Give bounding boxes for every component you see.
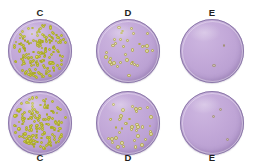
petri-dish-bottom-c (8, 91, 72, 155)
bacterial-colony (21, 30, 24, 33)
bacterial-colony (45, 123, 47, 125)
bacterial-colony (127, 74, 131, 78)
colony-layer-bottom-d (96, 91, 160, 155)
bacterial-colony (145, 49, 149, 53)
bacterial-colony (141, 125, 144, 128)
bacterial-colony (124, 122, 127, 125)
bacterial-colony (35, 110, 38, 113)
plate-label-top-d: D (88, 7, 168, 18)
bacterial-colony (60, 59, 63, 62)
bacterial-colony (122, 145, 125, 148)
colony-layer-top-e (180, 19, 244, 83)
bacterial-colony (116, 145, 120, 149)
bacterial-colony (37, 30, 40, 33)
bacterial-colony (52, 110, 55, 113)
bacterial-colony (23, 140, 26, 143)
bacterial-colony (35, 136, 38, 139)
bacterial-colony (117, 26, 121, 30)
bacterial-colony (54, 121, 57, 124)
bacterial-colony (61, 55, 64, 58)
bacterial-colony (144, 138, 147, 141)
bacterial-colony (55, 141, 58, 144)
bacterial-colony (128, 118, 131, 121)
bacterial-colony (121, 127, 124, 130)
plate-cell-top-d: D (88, 0, 168, 83)
bacterial-colony (119, 38, 122, 41)
bacterial-colony (140, 143, 144, 147)
bacterial-colony (130, 128, 133, 131)
petri-dish-figure-panel: C D E (0, 0, 256, 166)
bacterial-colony (136, 64, 139, 67)
plate-label-bottom-c: C (0, 152, 80, 163)
bacterial-colony (126, 39, 129, 42)
bacterial-colony (15, 41, 17, 43)
bacterial-colony (146, 106, 149, 109)
petri-dish-bottom-d (96, 91, 160, 155)
petri-dish-bottom-e (180, 91, 244, 155)
bacterial-colony (59, 135, 63, 139)
bacterial-colony (35, 96, 38, 99)
bacterial-colony (48, 48, 51, 51)
bacterial-colony (30, 124, 33, 127)
bacterial-colony (15, 61, 17, 63)
bacterial-colony (124, 53, 127, 56)
bacterial-colony (130, 27, 133, 30)
bacterial-colony (135, 129, 138, 132)
bacterial-colony (212, 64, 215, 67)
agar-surface (96, 19, 160, 83)
bacterial-colony (28, 102, 30, 104)
bacterial-colony (134, 107, 138, 111)
bacterial-colony (24, 49, 27, 52)
bacterial-colony (32, 51, 34, 53)
bacterial-colony (40, 137, 43, 140)
bacterial-colony (52, 46, 54, 48)
bacterial-colony (35, 124, 38, 127)
bacterial-colony (111, 141, 114, 144)
bacterial-colony (133, 139, 136, 142)
bacterial-colony (38, 114, 41, 117)
colony-layer-bottom-c (8, 91, 72, 155)
bacterial-colony (31, 96, 34, 99)
bacterial-colony (31, 102, 34, 105)
bacterial-colony (226, 138, 229, 141)
bacterial-colony (62, 38, 64, 40)
bacterial-colony (223, 44, 225, 46)
bacterial-colony (46, 136, 49, 139)
bacterial-colony (25, 128, 27, 130)
bacterial-colony (119, 61, 122, 64)
agar-surface (180, 91, 244, 155)
bacterial-colony (17, 108, 20, 111)
bacterial-colony (121, 108, 125, 112)
bacterial-colony (29, 70, 32, 73)
bacterial-colony (53, 129, 55, 131)
bacterial-colony (31, 108, 34, 111)
bacterial-colony (49, 26, 52, 29)
bacterial-colony (48, 39, 51, 42)
bacterial-colony (24, 47, 27, 50)
bacterial-colony (47, 116, 50, 119)
petri-dish-top-d (96, 19, 160, 83)
bacterial-colony (56, 36, 59, 39)
bacterial-colony (20, 102, 23, 105)
bacterial-colony (31, 27, 34, 30)
bacterial-colony (112, 61, 116, 65)
bacterial-colony (40, 73, 43, 76)
bacterial-colony (136, 134, 140, 138)
plate-cell-bottom-c: C (0, 83, 80, 166)
bacterial-colony (30, 56, 32, 58)
bacterial-colony (13, 114, 16, 117)
bacterial-colony (131, 48, 135, 52)
petri-dish-top-c (8, 19, 72, 83)
bacterial-colony (64, 41, 67, 44)
bacterial-colony (32, 74, 35, 77)
bacterial-colony (21, 123, 24, 126)
bacterial-colony (56, 64, 59, 67)
bacterial-colony (35, 76, 38, 79)
bacterial-colony (31, 33, 33, 35)
bacterial-colony (64, 116, 67, 119)
bacterial-colony (29, 60, 31, 62)
bacterial-colony (125, 58, 129, 62)
bacterial-colony (36, 130, 38, 132)
bacterial-colony (47, 67, 49, 69)
bacterial-colony (59, 41, 62, 44)
